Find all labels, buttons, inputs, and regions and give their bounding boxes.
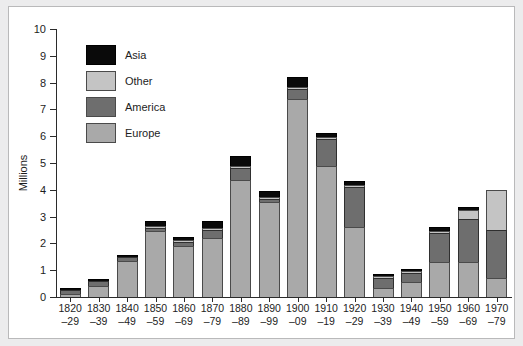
bar-column (486, 190, 507, 297)
y-axis-tick-label: 10 (34, 23, 46, 35)
bar-segment-europe (259, 202, 280, 297)
x-axis-tick-label: 1920–29 (340, 302, 368, 327)
x-axis-tick-label: 1930–39 (369, 302, 397, 327)
bar-segment-europe (429, 262, 450, 297)
x-axis-label-decade: 1900 (284, 302, 312, 315)
x-axis-label-decade: 1920 (340, 302, 368, 315)
bar-segment-other (458, 210, 479, 219)
x-axis-tick-label: 1900–09 (284, 302, 312, 327)
x-axis-label-decade: 1970 (483, 302, 511, 315)
x-axis-label-range: –49 (397, 315, 425, 328)
legend-item-europe[interactable]: Europe (86, 123, 165, 143)
bar-segment-europe (486, 278, 507, 297)
x-axis-label-decade: 1940 (397, 302, 425, 315)
x-axis-label-decade: 1840 (113, 302, 141, 315)
x-axis-tick-label: 1830–39 (84, 302, 112, 327)
bar-segment-europe (316, 166, 337, 297)
chart-figure: Millions 012345678910 1820–291830–391840… (0, 0, 523, 346)
legend-label: Asia (125, 49, 146, 61)
bar-segment-europe (287, 99, 308, 297)
y-axis-tick-label: 7 (40, 103, 46, 115)
legend-item-america[interactable]: America (86, 97, 165, 117)
bar-segment-europe (458, 262, 479, 297)
bar-column (401, 269, 422, 297)
legend-swatch-europe (86, 123, 116, 143)
x-axis-label-range: –59 (426, 315, 454, 328)
bar-segment-america (429, 233, 450, 262)
bar-segment-america (287, 89, 308, 98)
x-axis-label-decade: 1880 (227, 302, 255, 315)
x-axis-tick-label: 1820–29 (56, 302, 84, 327)
x-axis-label-decade: 1930 (369, 302, 397, 315)
bar-segment-america (486, 230, 507, 278)
x-axis-label-range: –79 (483, 315, 511, 328)
y-axis-tick-label: 6 (40, 130, 46, 142)
y-axis-tick-label: 3 (40, 211, 46, 223)
x-axis-tick-label: 1880–89 (227, 302, 255, 327)
legend-label: Other (125, 75, 153, 87)
y-axis-tick (50, 297, 56, 298)
x-axis-label-decade: 1830 (84, 302, 112, 315)
x-axis-tick-label: 1870–79 (198, 302, 226, 327)
legend-swatch-asia (86, 45, 116, 65)
chart-frame: Millions 012345678910 1820–291830–391840… (8, 6, 515, 339)
x-axis-label-decade: 1890 (255, 302, 283, 315)
bar-column (458, 207, 479, 297)
bar-column (230, 156, 251, 297)
bar-column (202, 221, 223, 297)
bar-segment-europe (344, 227, 365, 297)
bar-segment-europe (373, 288, 394, 297)
bar-segment-asia (230, 156, 251, 166)
bar-segment-europe (173, 246, 194, 297)
x-axis-tick-label: 1960–69 (454, 302, 482, 327)
x-axis-label-range: –39 (369, 315, 397, 328)
y-axis-tick-label: 9 (40, 50, 46, 62)
x-axis-label-range: –79 (198, 315, 226, 328)
x-axis-label-range: –89 (227, 315, 255, 328)
x-axis-label-range: –59 (141, 315, 169, 328)
bar-column (145, 221, 166, 297)
x-axis-tick-label: 1840–49 (113, 302, 141, 327)
bar-segment-europe (401, 282, 422, 297)
x-axis-label-decade: 1860 (170, 302, 198, 315)
x-axis-label-range: –69 (454, 315, 482, 328)
bar-segment-europe (88, 286, 109, 297)
bar-segment-europe (117, 261, 138, 297)
bar-column (316, 133, 337, 297)
x-axis-tick-label: 1850–59 (141, 302, 169, 327)
x-axis-tick-label: 1970–79 (483, 302, 511, 327)
bar-column (373, 274, 394, 297)
legend-item-other[interactable]: Other (86, 71, 165, 91)
x-axis-label-decade: 1850 (141, 302, 169, 315)
y-axis-tick-label: 2 (40, 237, 46, 249)
x-axis-label-decade: 1820 (56, 302, 84, 315)
y-axis-title: Millions (17, 133, 29, 213)
legend-item-asia[interactable]: Asia (86, 45, 165, 65)
bar-segment-europe (230, 180, 251, 297)
bar-segment-america (458, 219, 479, 262)
bar-column (117, 255, 138, 297)
x-axis-label-decade: 1870 (198, 302, 226, 315)
x-axis-line (56, 297, 512, 298)
bar-segment-america (230, 168, 251, 180)
bar-segment-asia (202, 221, 223, 229)
legend-label: Europe (125, 127, 160, 139)
bar-segment-america (316, 139, 337, 166)
legend-swatch-america (86, 97, 116, 117)
x-axis-label-range: –19 (312, 315, 340, 328)
x-axis-tick-label: 1940–49 (397, 302, 425, 327)
x-axis-tick-label: 1950–59 (426, 302, 454, 327)
x-axis-label-decade: 1950 (426, 302, 454, 315)
x-axis-label-range: –49 (113, 315, 141, 328)
x-axis-label-range: –29 (340, 315, 368, 328)
x-axis-label-range: –29 (56, 315, 84, 328)
x-axis-label-range: –09 (284, 315, 312, 328)
bar-column (60, 288, 81, 297)
x-axis-tick-label: 1910–19 (312, 302, 340, 327)
bar-column (259, 191, 280, 297)
x-axis-label-range: –69 (170, 315, 198, 328)
bar-column (88, 279, 109, 297)
bar-segment-asia (287, 77, 308, 88)
legend-swatch-other (86, 71, 116, 91)
y-axis-tick-label: 8 (40, 77, 46, 89)
